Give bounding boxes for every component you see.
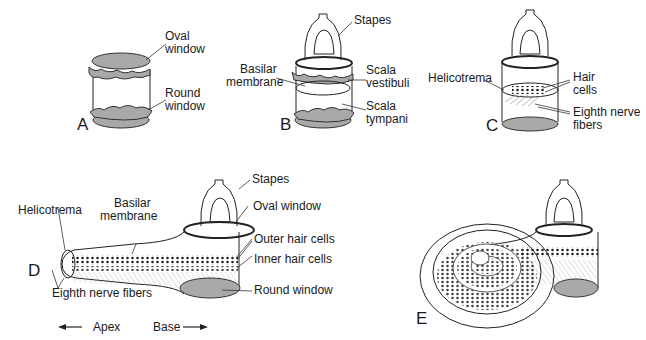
- eighth-nerve-fibers-label-d: Eighth nerve fibers: [52, 286, 152, 300]
- apex-arrow-icon: [58, 324, 82, 330]
- stapes-label-b: Stapes: [354, 13, 391, 27]
- panel-c: Helicotrema Haircells Eighth nervefibers…: [428, 10, 641, 135]
- panel-letter-d: D: [28, 261, 40, 280]
- basilar-membrane-label-b: Basilarmembrane: [226, 62, 284, 89]
- eighth-nerve-fibers-label-c: Eighth nervefibers: [573, 105, 641, 132]
- cochlea-diagram: Ovalwindow Roundwindow A Stapes Basilarm…: [0, 0, 646, 340]
- helicotrema-label-c: Helicotrema: [428, 71, 492, 85]
- round-window-label-d: Round window: [254, 283, 333, 297]
- base-arrow-icon: [183, 324, 208, 330]
- panel-letter-b: B: [280, 115, 291, 134]
- outer-hair-cells-label: Outer hair cells: [254, 232, 335, 246]
- panel-e: E: [416, 180, 598, 328]
- panel-a: Ovalwindow Roundwindow A: [77, 29, 205, 134]
- scala-vestibuli-label: Scalavestibuli: [366, 63, 409, 90]
- round-window-label-a: Roundwindow: [164, 86, 205, 113]
- panel-letter-a: A: [77, 115, 89, 134]
- basilar-membrane-label-d: Basilarmembrane: [100, 196, 158, 223]
- oval-window-label-d: Oval window: [253, 199, 321, 213]
- panel-b: Stapes Basilarmembrane Scalavestibuli Sc…: [226, 13, 409, 134]
- apex-label: Apex: [93, 320, 120, 334]
- inner-hair-cells-label: Inner hair cells: [254, 252, 332, 266]
- helicotrema-label-d: Helicotrema: [18, 203, 82, 217]
- panel-letter-e: E: [416, 309, 427, 328]
- panel-letter-c: C: [486, 116, 498, 135]
- panel-d: Stapes Oval window Helicotrema Basilarme…: [18, 172, 335, 334]
- base-label: Base: [153, 320, 181, 334]
- scala-tympani-label: Scalatympani: [366, 99, 408, 126]
- stapes-label-d: Stapes: [252, 172, 289, 186]
- hair-cells-label-c: Haircells: [573, 70, 597, 97]
- oval-window-label-a: Ovalwindow: [164, 29, 205, 56]
